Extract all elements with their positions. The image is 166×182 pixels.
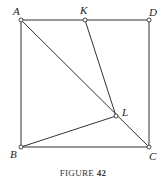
segment-bl xyxy=(21,116,116,147)
label-b: B xyxy=(10,148,17,160)
diagonal-ac xyxy=(21,20,149,147)
label-l: L xyxy=(121,106,128,118)
segment-kl xyxy=(85,20,116,116)
figure-canvas: A K D B C L FIGURE 42 xyxy=(0,0,166,182)
label-c: C xyxy=(149,150,157,162)
figure-caption: FIGURE 42 xyxy=(60,168,107,178)
caption-number: 42 xyxy=(97,168,107,178)
point-k-marker xyxy=(83,18,87,22)
point-d-marker xyxy=(147,18,151,22)
label-d: D xyxy=(148,6,157,18)
point-l-marker xyxy=(114,114,118,118)
label-a: A xyxy=(12,5,20,17)
point-c-marker xyxy=(147,145,151,149)
caption-prefix: FIGURE xyxy=(60,168,95,178)
point-a-marker xyxy=(19,18,23,22)
point-b-marker xyxy=(19,145,23,149)
label-k: K xyxy=(79,4,88,16)
